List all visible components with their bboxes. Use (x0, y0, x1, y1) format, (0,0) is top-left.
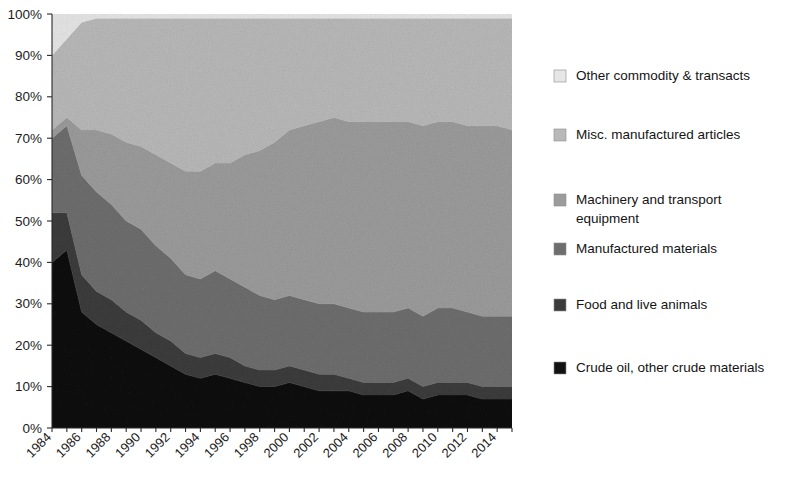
y-tick-label: 100% (7, 7, 42, 22)
x-tick-label: 1990 (112, 430, 143, 461)
x-tick-label: 2012 (439, 430, 470, 461)
x-tick-label: 1996 (201, 430, 232, 461)
y-tick-label: 10% (15, 379, 42, 394)
y-tick-label: 30% (15, 296, 42, 311)
x-tick-label: 1994 (171, 430, 202, 461)
legend-swatch (554, 243, 566, 255)
x-tick-label: 2010 (409, 430, 440, 461)
legend-swatch (554, 70, 566, 82)
legend-label: Misc. manufactured articles (576, 127, 741, 142)
y-axis-ticks: 0%10%20%30%40%50%60%70%80%90%100% (7, 7, 52, 436)
y-tick-label: 20% (15, 338, 42, 353)
y-tick-label: 90% (15, 48, 42, 63)
x-tick-label: 1992 (142, 430, 173, 461)
y-tick-label: 70% (15, 131, 42, 146)
y-tick-label: 80% (15, 89, 42, 104)
x-axis-ticks: 1984198619881990199219941996199820002002… (23, 428, 512, 461)
chart-legend: Other commodity & transactsMisc. manufac… (554, 68, 765, 375)
legend-label: Machinery and transport (576, 192, 722, 207)
x-tick-label: 1986 (53, 430, 84, 461)
y-tick-label: 60% (15, 172, 42, 187)
chart-canvas: 0%10%20%30%40%50%60%70%80%90%100% 198419… (0, 0, 806, 480)
legend-swatch (554, 362, 566, 374)
stacked-area-chart: 0%10%20%30%40%50%60%70%80%90%100% 198419… (0, 0, 806, 480)
legend-label: equipment (576, 211, 639, 226)
legend-label: Crude oil, other crude materials (576, 360, 765, 375)
x-tick-label: 1988 (82, 430, 113, 461)
legend-swatch (554, 299, 566, 311)
x-tick-label: 2004 (320, 430, 351, 461)
x-tick-label: 2006 (350, 430, 381, 461)
y-tick-label: 40% (15, 255, 42, 270)
legend-label: Manufactured materials (576, 241, 717, 256)
legend-label: Food and live animals (576, 297, 708, 312)
legend-label: Other commodity & transacts (576, 68, 750, 83)
x-tick-label: 2002 (290, 430, 321, 461)
area-bands (52, 14, 512, 428)
plot-area (52, 14, 512, 428)
x-tick-label: 2008 (379, 430, 410, 461)
x-tick-label: 2014 (468, 430, 499, 461)
x-tick-label: 2000 (260, 430, 291, 461)
legend-swatch (554, 129, 566, 141)
y-tick-label: 50% (15, 214, 42, 229)
x-tick-label: 1998 (231, 430, 262, 461)
legend-swatch (554, 194, 566, 206)
